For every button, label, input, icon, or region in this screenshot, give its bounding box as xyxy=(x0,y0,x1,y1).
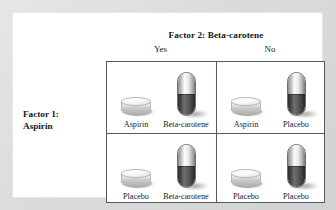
cell-aspirin-yes-betacarotene-yes: Aspirin xyxy=(107,62,215,132)
cell-contents: Placebo xyxy=(107,134,215,204)
row-factor-title-line1: Factor 1: xyxy=(23,109,59,119)
treatment-label: Placebo xyxy=(283,120,309,130)
treatment-label: Aspirin xyxy=(234,120,259,130)
cell-contents: Placebo xyxy=(217,134,325,204)
tablet-icon xyxy=(114,145,158,191)
tablet-icon xyxy=(224,73,268,119)
treatment-item: Aspirin xyxy=(112,73,160,130)
capsule-icon xyxy=(164,145,208,191)
column-header-yes: Yes xyxy=(106,44,215,54)
capsule-icon xyxy=(274,73,318,119)
cell-aspirin-yes-betacarotene-no: Aspirin xyxy=(217,62,325,132)
treatment-label: Placebo xyxy=(233,192,259,202)
treatment-label: Beta-carotene xyxy=(163,192,208,202)
treatment-label: Placebo xyxy=(123,192,149,202)
treatment-label: Beta-carotene xyxy=(163,120,208,130)
column-factor-title: Factor 2: Beta-carotene xyxy=(106,30,326,40)
cell-contents: Aspirin xyxy=(107,62,215,132)
treatment-label: Placebo xyxy=(283,192,309,202)
treatment-item: Placebo xyxy=(272,73,320,130)
cell-contents: Aspirin xyxy=(217,62,325,132)
figure-page: Factor 2: Beta-carotene Yes No Factor 1:… xyxy=(13,13,322,197)
treatment-item: Placebo xyxy=(112,145,160,202)
tablet-icon xyxy=(224,145,268,191)
cell-aspirin-no-betacarotene-no: Placebo xyxy=(217,134,325,204)
treatment-item: Aspirin xyxy=(222,73,270,130)
tablet-icon xyxy=(114,73,158,119)
cell-aspirin-no-betacarotene-yes: Placebo xyxy=(107,134,215,204)
treatment-item: Beta-carotene xyxy=(162,73,210,130)
capsule-icon xyxy=(274,145,318,191)
row-factor-title-line2: Aspirin xyxy=(23,121,53,131)
treatment-label: Aspirin xyxy=(124,120,149,130)
capsule-icon xyxy=(164,73,208,119)
scan-background: Factor 2: Beta-carotene Yes No Factor 1:… xyxy=(0,0,336,210)
treatment-item: Beta-carotene xyxy=(162,145,210,202)
column-header-no: No xyxy=(215,44,325,54)
treatment-item: Placebo xyxy=(272,145,320,202)
row-factor-title: Factor 1: Aspirin xyxy=(23,109,101,132)
treatment-item: Placebo xyxy=(222,145,270,202)
factorial-grid: Aspirin xyxy=(106,61,325,203)
